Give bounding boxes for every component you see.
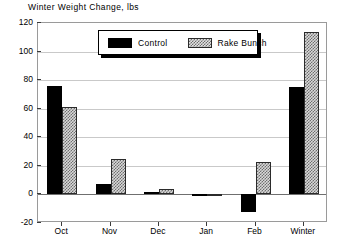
x-tick-mark bbox=[303, 222, 304, 226]
bar-jan-rake-bunch bbox=[207, 194, 222, 196]
y-tick-mark bbox=[37, 193, 41, 194]
zero-line bbox=[38, 194, 326, 195]
x-tick-mark bbox=[158, 222, 159, 226]
y-tick-label: 80 bbox=[24, 74, 33, 84]
bar-oct-rake-bunch bbox=[62, 107, 77, 194]
x-tick-mark bbox=[255, 222, 256, 226]
y-axis: 120100806040200-20 bbox=[0, 22, 33, 222]
bar-feb-rake-bunch bbox=[256, 162, 271, 195]
x-tick-label-nov: Nov bbox=[102, 226, 117, 236]
y-tick-mark bbox=[37, 108, 41, 109]
x-axis: OctNovDecJanFebWinter bbox=[37, 226, 327, 242]
bar-nov-rake-bunch bbox=[111, 159, 126, 195]
gridline bbox=[38, 137, 326, 138]
bar-jan-control bbox=[192, 194, 207, 196]
y-tick-mark bbox=[37, 136, 41, 137]
chart-legend: Control Rake Bunch bbox=[98, 30, 258, 55]
bar-dec-control bbox=[144, 192, 159, 195]
legend-label-control: Control bbox=[138, 38, 168, 48]
legend-item-rake-bunch: Rake Bunch bbox=[188, 38, 267, 48]
y-tick-label: 100 bbox=[19, 46, 33, 56]
x-tick-mark bbox=[61, 222, 62, 226]
y-tick-label: 40 bbox=[24, 131, 33, 141]
legend-swatch-rake-bunch-icon bbox=[188, 38, 212, 48]
legend-item-control: Control bbox=[108, 38, 168, 48]
bar-winter-control bbox=[289, 87, 304, 194]
y-tick-mark bbox=[37, 79, 41, 80]
x-tick-mark bbox=[110, 222, 111, 226]
gridline bbox=[38, 109, 326, 110]
x-tick-label-oct: Oct bbox=[55, 226, 68, 236]
y-tick-label: 60 bbox=[24, 103, 33, 113]
bar-nov-control bbox=[96, 184, 111, 194]
bar-feb-control bbox=[241, 194, 256, 211]
y-tick-label: -20 bbox=[21, 217, 33, 227]
y-tick-label: 120 bbox=[19, 17, 33, 27]
gridline bbox=[38, 80, 326, 81]
y-tick-mark bbox=[37, 51, 41, 52]
legend-swatch-control-icon bbox=[108, 38, 132, 48]
x-tick-label-winter: Winter bbox=[291, 226, 316, 236]
bar-oct-control bbox=[47, 86, 62, 195]
bar-dec-rake-bunch bbox=[159, 189, 174, 195]
bar-chart: Winter Weight Change, lbs 12010080604020… bbox=[0, 0, 337, 246]
y-tick-label: 20 bbox=[24, 160, 33, 170]
x-tick-mark bbox=[206, 222, 207, 226]
chart-title: Winter Weight Change, lbs bbox=[28, 2, 139, 12]
gridline bbox=[38, 166, 326, 167]
legend-label-rake-bunch: Rake Bunch bbox=[218, 38, 267, 48]
x-tick-label-jan: Jan bbox=[199, 226, 213, 236]
y-tick-mark bbox=[37, 165, 41, 166]
bar-winter-rake-bunch bbox=[304, 32, 319, 195]
x-tick-label-dec: Dec bbox=[150, 226, 165, 236]
y-tick-label: 0 bbox=[28, 188, 33, 198]
y-tick-mark bbox=[37, 22, 41, 23]
y-tick-mark bbox=[37, 222, 41, 223]
x-tick-label-feb: Feb bbox=[247, 226, 262, 236]
